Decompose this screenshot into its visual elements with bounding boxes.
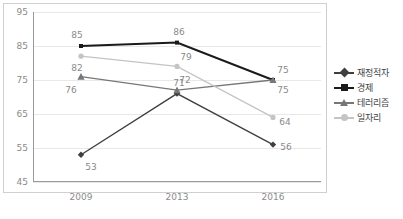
legend-item-label: 테러리즘	[357, 96, 389, 109]
series-marker	[174, 64, 179, 69]
series-line	[81, 43, 273, 80]
x-axis-tick-label: 2009	[70, 192, 93, 202]
legend-item-square[interactable]: 경제	[334, 81, 402, 94]
data-point-label: 75	[277, 85, 288, 95]
data-point-label: 72	[179, 75, 190, 85]
data-point-label: 64	[279, 117, 290, 127]
legend-marker-icon	[334, 112, 354, 123]
plot-area: 455565758595 200920132016 53715685867576…	[33, 12, 321, 182]
data-point-label: 82	[71, 63, 82, 73]
y-axis-tick-label: 95	[17, 7, 28, 17]
data-point-label: 85	[71, 30, 82, 40]
y-axis-tick-label: 55	[17, 143, 28, 153]
legend-item-triangle[interactable]: 테러리즘	[334, 96, 402, 109]
y-axis-tick-label: 85	[17, 41, 28, 51]
data-point-label: 56	[280, 142, 291, 152]
legend-marker-icon	[334, 67, 354, 78]
data-point-label: 79	[180, 52, 191, 62]
legend-marker-icon	[334, 97, 354, 108]
legend-marker-icon	[334, 82, 354, 93]
legend-item-label: 경제	[357, 81, 373, 94]
series-marker	[270, 141, 276, 147]
chart-legend: 재정적자경제테러리즘일자리	[334, 66, 402, 126]
data-point-label: 76	[65, 85, 76, 95]
y-axis-tick-label: 65	[17, 109, 28, 119]
y-axis-tick-label: 75	[17, 75, 28, 85]
legend-item-diamond[interactable]: 재정적자	[334, 66, 402, 79]
legend-item-label: 재정적자	[357, 66, 389, 79]
series-marker	[175, 41, 179, 45]
data-point-label: 75	[277, 65, 288, 75]
x-axis-tick-label: 2016	[262, 192, 285, 202]
series-marker	[78, 54, 83, 59]
x-axis-tick-label: 2013	[166, 192, 189, 202]
y-axis-tick-label: 45	[17, 177, 28, 187]
data-point-label: 86	[173, 27, 184, 37]
series-marker	[79, 44, 83, 48]
line-chart: 455565758595 200920132016 53715685867576…	[0, 0, 403, 219]
legend-item-circle[interactable]: 일자리	[334, 111, 402, 124]
gridline	[33, 182, 321, 183]
series-marker	[270, 115, 275, 120]
series-marker	[78, 152, 84, 158]
legend-item-label: 일자리	[357, 111, 381, 124]
data-point-label: 53	[85, 162, 96, 172]
